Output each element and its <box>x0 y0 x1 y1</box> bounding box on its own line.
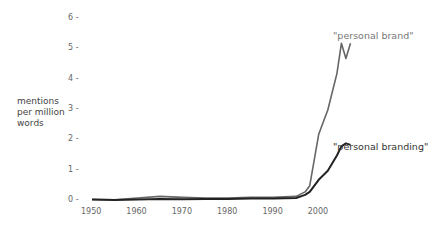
legend-personal-brand: "personal brand" <box>333 30 414 41</box>
series-personal-brand-line <box>92 43 351 200</box>
legend-personal-branding: "personal branding" <box>333 141 428 152</box>
